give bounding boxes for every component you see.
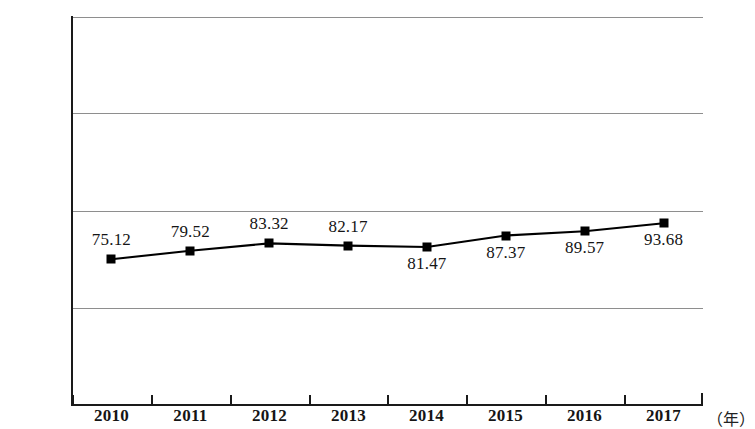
data-point-marker [422, 242, 431, 251]
data-point-label: 79.52 [145, 222, 235, 242]
x-tick-0 [72, 395, 74, 405]
x-tick-3 [309, 395, 311, 405]
x-tick-7 [624, 395, 626, 405]
gridline-150 [72, 113, 703, 114]
plot-area [72, 17, 703, 405]
x-tick-label-2017: 2017 [624, 406, 703, 426]
x-tick-label-2012: 2012 [230, 406, 309, 426]
x-axis-end-tick [701, 393, 703, 406]
x-tick-2 [230, 395, 232, 405]
x-tick-label-2016: 2016 [545, 406, 624, 426]
data-point-label: 93.68 [619, 230, 709, 250]
data-point-label: 87.37 [461, 243, 551, 263]
data-point-label: 82.17 [303, 217, 393, 237]
y-axis-line [71, 16, 73, 406]
data-point-marker [265, 239, 274, 248]
data-point-marker [501, 231, 510, 240]
data-point-marker [580, 227, 589, 236]
x-tick-label-2013: 2013 [309, 406, 388, 426]
data-point-marker [107, 255, 116, 264]
x-tick-label-2010: 2010 [72, 406, 151, 426]
gridline-200 [72, 17, 703, 18]
data-point-marker [186, 246, 195, 255]
x-tick-4 [387, 395, 389, 405]
line-chart: 200.00 150.00 100.00 50.00 0 2010 2011 2… [0, 0, 755, 429]
data-point-label: 83.32 [224, 214, 314, 234]
data-point-marker [344, 241, 353, 250]
data-point-label: 89.57 [540, 238, 630, 258]
gridline-100 [72, 211, 703, 212]
x-tick-6 [545, 395, 547, 405]
data-point-label: 75.12 [66, 230, 156, 250]
x-tick-label-2015: 2015 [466, 406, 545, 426]
x-tick-label-2011: 2011 [151, 406, 230, 426]
x-tick-label-2014: 2014 [387, 406, 466, 426]
x-tick-5 [466, 395, 468, 405]
x-axis-unit-label: （年） [707, 406, 755, 429]
gridline-50 [72, 308, 703, 309]
x-tick-1 [151, 395, 153, 405]
data-point-label: 81.47 [382, 254, 472, 274]
data-point-marker [659, 219, 668, 228]
